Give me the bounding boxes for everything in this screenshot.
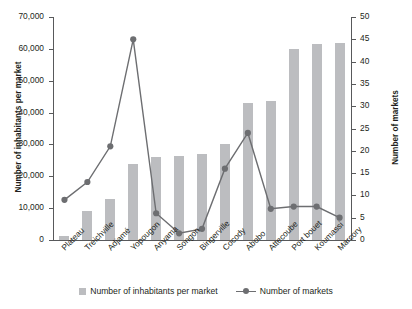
y-tick-right [352,151,356,152]
legend-item-markets: Number of markets [236,286,333,296]
line-marker [130,36,136,42]
plot-area: 010,00020,00030,00040,00050,00060,00070,… [53,17,351,240]
legend-item-inhabitants: Number of inhabitants per market [79,286,218,296]
y-tick-label-right: 0 [360,235,400,243]
y-tick-right [352,62,356,63]
y-tick-right [352,218,356,219]
y-tick-label-left: 20,000 [0,171,44,179]
y-tick-label-right: 5 [360,213,400,221]
line-marker [314,203,320,209]
line-marker [222,166,228,172]
y-tick-label-left: 10,000 [0,203,44,211]
y-tick-right [352,17,356,18]
line-marker [245,130,251,136]
y-tick-label-right: 40 [360,57,400,65]
y-tick-label-right: 25 [360,124,400,132]
line-marker [107,143,113,149]
y-tick-label-left: 50,000 [0,76,44,84]
line-marker [84,179,90,185]
line-marker [153,210,159,216]
y-tick-label-left: 60,000 [0,44,44,52]
chart-title [0,0,412,5]
y-tick-right [352,84,356,85]
line-marker [61,197,67,203]
line-marker [291,203,297,209]
y-tick-label-right: 20 [360,146,400,154]
legend-label-inhabitants: Number of inhabitants per market [90,286,218,296]
y-tick-right [352,39,356,40]
y-tick-right [352,106,356,107]
legend-label-markets: Number of markets [260,286,333,296]
y-tick-right [352,195,356,196]
line-series [53,17,351,241]
y-tick-label-right: 35 [360,79,400,87]
y-tick-right [352,173,356,174]
y-tick-label-left: 70,000 [0,12,44,20]
y-tick-label-left: 40,000 [0,108,44,116]
y-tick-label-right: 10 [360,190,400,198]
y-tick-label-left: 30,000 [0,139,44,147]
y-tick-label-right: 30 [360,101,400,109]
y-tick-label-right: 50 [360,12,400,20]
y-tick-label-left: 0 [0,235,44,243]
chart-container: Number of inhabitants per market Number … [0,0,412,309]
chart-legend: Number of inhabitants per market Number … [0,286,412,296]
y-tick-right [352,129,356,130]
line-marker [268,206,274,212]
y-tick-label-right: 15 [360,168,400,176]
y-tick-label-right: 45 [360,34,400,42]
line-marker-icon [236,288,256,295]
bar-swatch-icon [79,288,86,295]
line-path [64,39,339,233]
